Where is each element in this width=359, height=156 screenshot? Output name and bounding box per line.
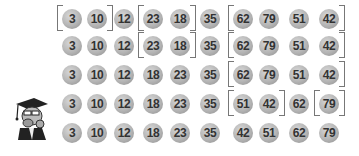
number-ball: 23 [170, 94, 190, 114]
number-ball: 3 [62, 9, 82, 29]
number-ball: 12 [114, 9, 134, 29]
number-ball: 18 [143, 94, 163, 114]
professor-mascot-icon [12, 96, 50, 142]
number-ball: 42 [319, 9, 339, 29]
number-ball: 51 [233, 94, 253, 114]
number-ball: 10 [87, 36, 107, 56]
close-bracket [339, 90, 345, 116]
number-ball: 23 [143, 36, 163, 56]
number-ball: 42 [233, 123, 253, 143]
number-ball: 10 [87, 65, 107, 85]
number-ball: 79 [319, 123, 339, 143]
number-ball: 35 [200, 9, 220, 29]
number-ball: 35 [200, 65, 220, 85]
number-ball: 51 [289, 36, 309, 56]
number-ball: 12 [114, 65, 134, 85]
number-ball: 42 [319, 36, 339, 56]
open-bracket [314, 90, 320, 116]
number-ball: 62 [289, 123, 309, 143]
open-bracket [138, 5, 144, 31]
number-ball: 51 [289, 65, 309, 85]
number-ball: 10 [87, 9, 107, 29]
number-ball: 79 [319, 94, 339, 114]
close-bracket [339, 32, 345, 58]
number-ball: 79 [259, 9, 279, 29]
open-bracket [228, 5, 234, 31]
sort-step-row: 3101218233562795142 [0, 63, 359, 87]
number-ball: 23 [170, 65, 190, 85]
number-ball: 23 [143, 9, 163, 29]
open-bracket [57, 5, 63, 31]
number-ball: 3 [62, 94, 82, 114]
number-ball: 18 [170, 36, 190, 56]
number-ball: 62 [233, 9, 253, 29]
close-bracket [107, 5, 113, 31]
number-ball: 35 [200, 36, 220, 56]
number-ball: 79 [259, 65, 279, 85]
number-ball: 3 [62, 123, 82, 143]
number-ball: 42 [319, 65, 339, 85]
number-ball: 62 [289, 94, 309, 114]
number-ball: 10 [87, 123, 107, 143]
open-bracket [138, 32, 144, 58]
number-ball: 35 [200, 123, 220, 143]
open-bracket [228, 61, 234, 87]
number-ball: 23 [170, 123, 190, 143]
sort-step-row: 3101218233542516279 [0, 121, 359, 145]
number-ball: 18 [170, 9, 190, 29]
number-ball: 12 [114, 123, 134, 143]
number-ball: 18 [143, 123, 163, 143]
close-bracket [339, 61, 345, 87]
number-ball: 35 [200, 94, 220, 114]
number-ball: 62 [233, 36, 253, 56]
open-bracket [228, 90, 234, 116]
sort-step-row: 3101218233551426279 [0, 92, 359, 116]
close-bracket [279, 90, 285, 116]
number-ball: 62 [233, 65, 253, 85]
open-bracket [228, 32, 234, 58]
close-bracket [339, 5, 345, 31]
close-bracket [190, 32, 196, 58]
number-ball: 18 [143, 65, 163, 85]
number-ball: 51 [259, 123, 279, 143]
sort-step-row: 3101223183562795142 [0, 34, 359, 58]
sort-step-row: 3101223183562795142 [0, 7, 359, 31]
number-ball: 42 [259, 94, 279, 114]
number-ball: 79 [259, 36, 279, 56]
number-ball: 3 [62, 65, 82, 85]
number-ball: 51 [289, 9, 309, 29]
number-ball: 12 [114, 36, 134, 56]
number-ball: 10 [87, 94, 107, 114]
number-ball: 12 [114, 94, 134, 114]
number-ball: 3 [62, 36, 82, 56]
close-bracket [190, 5, 196, 31]
